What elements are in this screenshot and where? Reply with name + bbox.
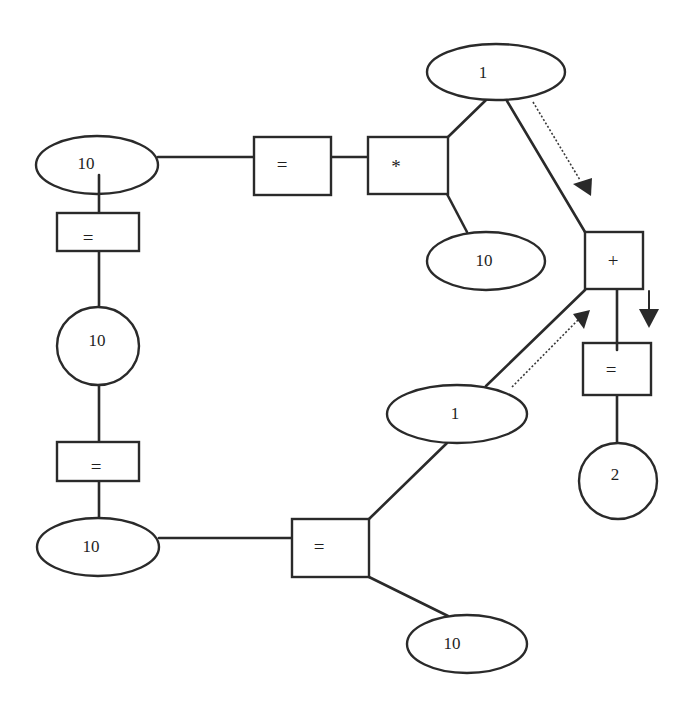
node-bottom-left-10: 10 — [37, 518, 159, 576]
node-mult: * — [368, 137, 448, 194]
arrowhead-icon — [573, 178, 592, 196]
node-bottom-eq: = — [292, 519, 369, 577]
node-left-eq-2: = — [57, 442, 139, 481]
node-label: * — [391, 156, 401, 177]
node-left-eq-1: = — [57, 213, 139, 251]
edge-mid-1-to-plus — [486, 290, 585, 386]
node-label: 10 — [78, 154, 95, 173]
node-left-top-10: 10 — [36, 136, 158, 194]
node-label: 10 — [89, 331, 106, 350]
node-label: = — [314, 536, 325, 557]
edge-mult-to-top-1 — [448, 100, 486, 137]
node-label: 10 — [476, 251, 493, 270]
arrowhead-icon — [573, 310, 590, 329]
edge-top-1-to-plus — [507, 101, 585, 232]
node-label: + — [608, 250, 619, 271]
node-left-circle-10: 10 — [57, 307, 139, 385]
node-label: = — [277, 154, 288, 175]
edge-bottom-eq-to-bottom-10 — [369, 577, 448, 616]
node-label: 1 — [451, 404, 460, 423]
edge-bottom-eq-to-mid-1 — [369, 443, 447, 519]
node-bottom-10: 10 — [407, 615, 527, 673]
node-label: 2 — [611, 465, 620, 484]
node-label: = — [606, 359, 617, 380]
node-top-1: 1 — [427, 44, 565, 100]
node-top-eq: = — [254, 137, 331, 195]
node-plus: + — [585, 232, 643, 289]
constraint-network-diagram: 10 = * 1 10 + = 10 = 10 = — [0, 0, 695, 714]
arrowhead-icon — [639, 309, 659, 328]
node-result-2: 2 — [579, 443, 657, 519]
node-label: 10 — [444, 634, 461, 653]
dotted-arrow-top-1-to-plus — [533, 102, 580, 180]
node-label: 10 — [83, 537, 100, 556]
node-mid-1: 1 — [387, 385, 527, 443]
node-label: = — [91, 456, 102, 477]
node-label: 1 — [479, 63, 488, 82]
node-mid-10: 10 — [427, 232, 545, 290]
node-label: = — [83, 227, 94, 248]
edge-mult-to-mid-10 — [447, 194, 467, 232]
node-right-eq: = — [583, 343, 651, 395]
